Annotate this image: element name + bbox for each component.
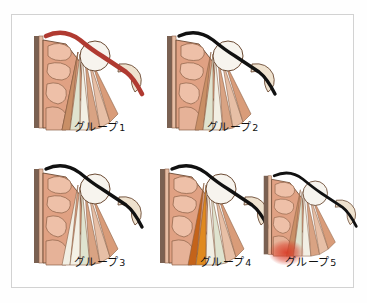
panel-group-3: グループ3 <box>22 155 162 273</box>
cortical-inner <box>39 169 43 263</box>
panel-group-4-caption: グループ4 <box>200 253 252 269</box>
panel-group-4-label: グループ <box>200 256 244 269</box>
cortical-bar <box>264 176 268 255</box>
panel-group-1-number: 1 <box>119 122 125 133</box>
panel-group-5-caption: グループ5 <box>285 253 337 269</box>
panel-group-5: グループ5 <box>255 158 365 273</box>
panel-group-1: グループ1 <box>22 22 162 137</box>
cortical-inner <box>268 176 271 255</box>
panel-group-2-caption: グループ2 <box>207 118 259 134</box>
panel-group-3-caption: グループ3 <box>74 253 126 269</box>
panel-group-4-number: 4 <box>245 257 251 268</box>
panel-group-3-label: グループ <box>74 256 118 269</box>
cortical-inner <box>39 36 43 128</box>
cortical-inner <box>172 36 176 128</box>
lobule-upper <box>275 182 294 197</box>
panel-group-5-label: グループ <box>285 256 329 269</box>
panel-group-2-label: グループ <box>207 121 251 134</box>
cortical-bar <box>160 169 165 263</box>
cortical-bar <box>34 36 39 128</box>
panel-group-5-number: 5 <box>330 257 336 268</box>
panel-group-3-number: 3 <box>119 257 125 268</box>
panel-group-1-label: グループ <box>74 121 118 134</box>
cortical-bar <box>167 36 172 128</box>
cortical-bar <box>34 169 39 263</box>
anatomy-figure: グループ1 グループ2 <box>0 0 367 303</box>
panel-group-2-number: 2 <box>252 122 258 133</box>
cortical-inner <box>165 169 169 263</box>
panel-group-2: グループ2 <box>155 22 295 137</box>
panel-group-1-caption: グループ1 <box>74 118 126 134</box>
